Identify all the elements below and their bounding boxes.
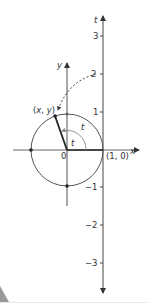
angle-t-label: t (71, 138, 75, 148)
origin-label: 0 (61, 151, 66, 161)
t-tick-1: 1 (93, 107, 98, 117)
y-axis-label: y (56, 60, 63, 70)
corner-triangle-decoration (0, 286, 9, 302)
t-tick-neg1: −1 (85, 182, 98, 192)
terminal-radius (55, 116, 67, 150)
t-axis-label: t (94, 15, 98, 25)
t-tick-neg3: −3 (85, 258, 98, 268)
wrap-dashed-curve (58, 74, 96, 110)
diagram-canvas: x y t 0 (x, y) (1, 0) t t 3 2 1 −1 −2 −3 (0, 0, 147, 304)
t-tick-3: 3 (93, 31, 98, 41)
t-tick-2: 2 (91, 69, 96, 79)
unit-circle-diagram: x y t 0 (x, y) (1, 0) t t 3 2 1 −1 −2 −3 (0, 0, 147, 304)
point-10-label: (1, 0) (106, 151, 129, 161)
point-0-neg1 (65, 184, 69, 188)
point-neg1-0 (29, 148, 33, 152)
t-tick-neg2: −2 (85, 220, 98, 230)
x-axis-label: x (129, 146, 136, 156)
point-0-1 (65, 112, 68, 115)
point-xy-label: (x, y) (33, 105, 55, 115)
arc-length-t-label: t (81, 122, 85, 132)
